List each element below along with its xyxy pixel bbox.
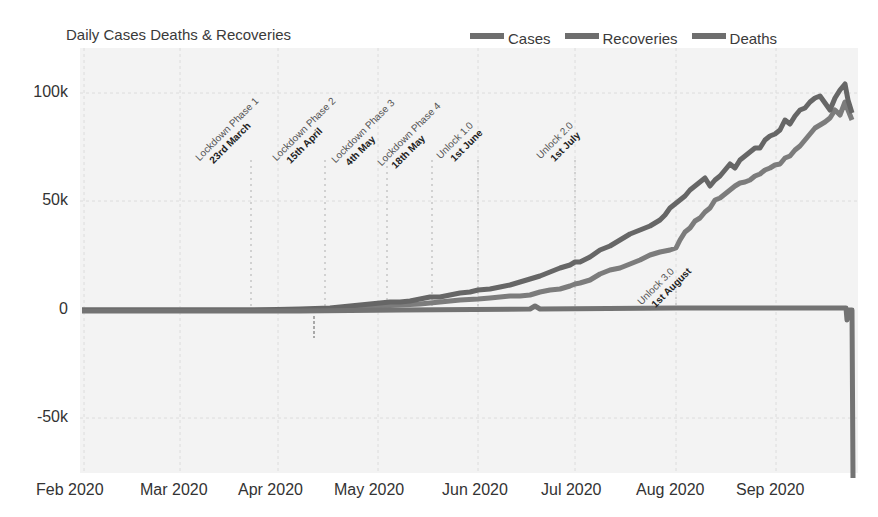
- x-tick-mar: Mar 2020: [140, 481, 208, 499]
- x-tick-sep: Sep 2020: [736, 481, 805, 499]
- x-tick-jul: Jul 2020: [541, 481, 602, 499]
- series-deaths: [82, 306, 853, 478]
- x-tick-may: May 2020: [334, 481, 404, 499]
- x-tick-aug: Aug 2020: [636, 481, 705, 499]
- x-tick-apr: Apr 2020: [238, 481, 303, 499]
- x-tick-feb: Feb 2020: [36, 481, 104, 499]
- series-cases: [82, 84, 852, 310]
- x-tick-jun: Jun 2020: [442, 481, 508, 499]
- y-tick-neg50k: -50k: [8, 408, 68, 426]
- y-tick-0: 0: [8, 300, 68, 318]
- y-tick-50k: 50k: [8, 191, 68, 209]
- y-tick-100k: 100k: [8, 83, 68, 101]
- lockdown-markers: [251, 160, 676, 310]
- chart-canvas: [0, 0, 878, 517]
